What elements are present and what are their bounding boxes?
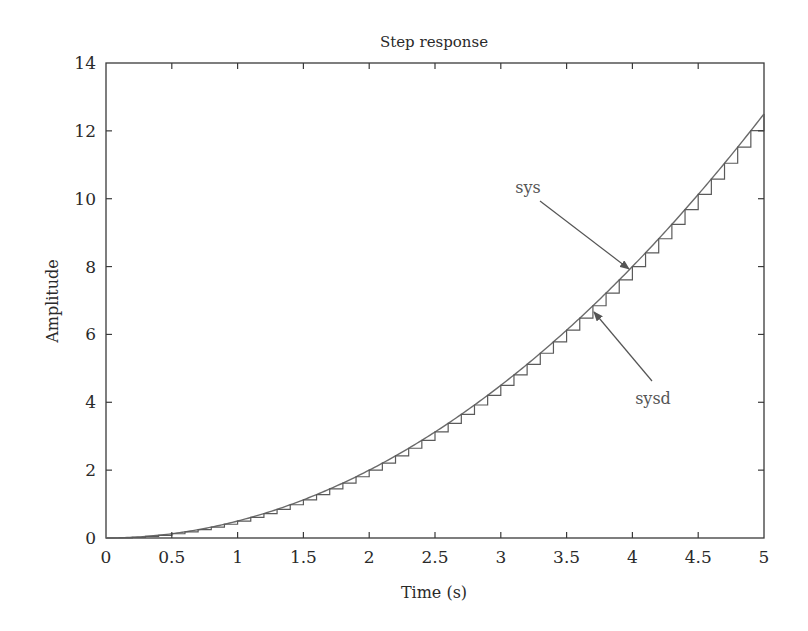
x-tick-label: 1.5 xyxy=(290,547,317,567)
y-tick-label: 12 xyxy=(74,121,96,141)
y-tick-label: 14 xyxy=(74,53,96,73)
x-tick-label: 4 xyxy=(627,547,638,567)
y-tick-label: 0 xyxy=(85,528,96,548)
series-sysd xyxy=(106,114,764,538)
x-tick-label: 0.5 xyxy=(158,547,185,567)
x-tick-label: 3 xyxy=(495,547,506,567)
y-tick-label: 8 xyxy=(85,257,96,277)
y-tick-label: 2 xyxy=(85,460,96,480)
x-tick-label: 2.5 xyxy=(421,547,448,567)
x-tick-label: 3.5 xyxy=(553,547,580,567)
annotation-label-sysd: sysd xyxy=(635,389,671,408)
x-tick-label: 4.5 xyxy=(685,547,712,567)
y-tick-label: 10 xyxy=(74,189,96,209)
y-tick-label: 4 xyxy=(85,392,96,412)
x-tick-label: 5 xyxy=(759,547,770,567)
x-tick-label: 2 xyxy=(364,547,375,567)
annotation-arrow xyxy=(594,312,652,381)
step-response-chart: Step response 00.511.522.533.544.5502468… xyxy=(0,0,808,631)
series-sys xyxy=(106,114,764,538)
annotations: syssysd xyxy=(515,178,671,408)
data-series xyxy=(106,114,764,538)
plot-frame xyxy=(106,63,764,538)
x-tick-label: 0 xyxy=(101,547,112,567)
plot-area xyxy=(106,63,764,538)
axis-ticks: 00.511.522.533.544.5502468101214 xyxy=(74,53,769,567)
annotation-label-sys: sys xyxy=(515,178,540,197)
x-tick-label: 1 xyxy=(232,547,243,567)
chart-title: Step response xyxy=(380,33,488,51)
x-axis-title: Time (s) xyxy=(401,583,467,602)
annotation-arrow xyxy=(540,201,629,269)
y-tick-label: 6 xyxy=(85,324,96,344)
y-axis-title: Amplitude xyxy=(43,259,62,344)
